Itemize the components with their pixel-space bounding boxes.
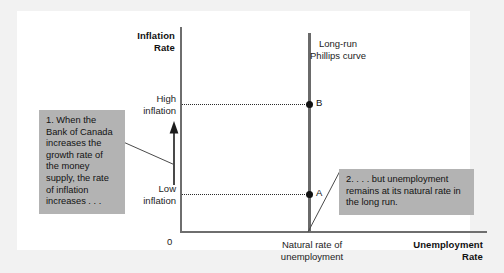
annotation-callout-1: 1. When the Bank of Canada increases the… — [39, 110, 125, 214]
y-axis-title: Inflation Rate — [103, 30, 175, 53]
y-axis-line — [180, 27, 182, 233]
origin-label: 0 — [167, 236, 172, 247]
x-tick-natural-rate: Natural rate of unemployment — [253, 239, 371, 262]
x-axis-title-line2: Rate — [383, 251, 483, 263]
x-axis-title: Unemployment Rate — [383, 239, 483, 262]
point-b-marker — [306, 101, 313, 108]
x-axis-title-line1: Unemployment — [383, 239, 483, 251]
diagram-panel: Inflation Rate Unemployment Rate 0 High … — [17, 11, 470, 250]
x-tick-natural-rate-line1: Natural rate of — [253, 239, 371, 251]
callout-1-leader-line — [121, 141, 177, 167]
guide-line-high-inflation — [182, 104, 309, 105]
figure-canvas: Inflation Rate Unemployment Rate 0 High … — [0, 0, 504, 273]
x-tick-natural-rate-line2: unemployment — [253, 251, 371, 263]
y-axis-title-line2: Rate — [103, 42, 175, 54]
y-axis-title-line1: Inflation — [103, 30, 175, 42]
callout-2-leader-line — [307, 169, 343, 233]
curve-label-line2: Phillips curve — [278, 50, 398, 62]
y-tick-high-line1: High — [110, 93, 176, 105]
point-b-label: B — [316, 97, 322, 108]
guide-line-low-inflation — [182, 194, 309, 195]
curve-label-line1: Long-run — [278, 38, 398, 50]
annotation-callout-2: 2. . . . but unemployment remains at its… — [339, 169, 474, 215]
long-run-phillips-curve-label: Long-run Phillips curve — [278, 38, 398, 61]
